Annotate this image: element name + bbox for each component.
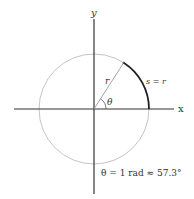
angle-arc	[101, 99, 107, 109]
y-axis-label: y	[90, 7, 97, 18]
angle-label: θ	[107, 97, 113, 107]
radius-label: r	[105, 76, 110, 86]
x-axis-label: x	[178, 103, 184, 114]
arc-label: s = r	[146, 77, 167, 86]
equation-label: θ = 1 rad ≈ 57.3°	[101, 168, 182, 178]
radian-diagram: y x r θ s = r θ = 1 rad ≈ 57.3°	[0, 0, 194, 199]
